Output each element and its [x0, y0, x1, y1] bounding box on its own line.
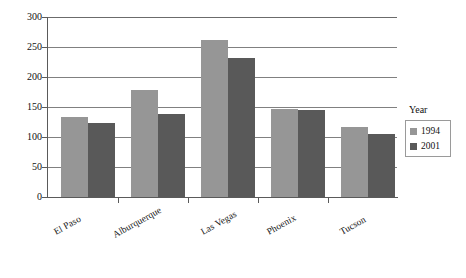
bar-phoenix-1994	[271, 109, 298, 197]
bar-group-tucson	[341, 17, 395, 197]
legend-swatch-1994	[410, 128, 417, 135]
bar-group-phoenix	[271, 17, 325, 197]
bar-alburquerque-1994	[131, 90, 158, 197]
bar-las-vegas-1994	[201, 40, 228, 197]
x-tick-1	[118, 197, 119, 203]
bar-group-el-paso	[61, 17, 115, 197]
legend-label-1994: 1994	[421, 127, 440, 136]
y-tick-label-50: 50	[8, 162, 42, 172]
bar-el-paso-2001	[88, 123, 115, 197]
bar-group-alburquerque	[131, 17, 185, 197]
x-tick-4	[328, 197, 329, 203]
x-tick-3	[258, 197, 259, 203]
legend-swatch-2001	[410, 143, 417, 150]
x-axis-line	[47, 197, 398, 198]
bar-alburquerque-2001	[158, 114, 185, 197]
legend-label-2001: 2001	[421, 142, 440, 151]
bar-group-las-vegas	[201, 17, 255, 197]
legend-title: Year	[409, 104, 427, 115]
y-tick-label-100: 100	[8, 132, 42, 142]
bar-phoenix-2001	[298, 110, 325, 197]
y-tick-label-250: 250	[8, 42, 42, 52]
bar-el-paso-1994	[61, 117, 88, 197]
legend-item-1994[interactable]: 1994	[410, 127, 447, 136]
y-tick-label-150: 150	[8, 102, 42, 112]
plot-area	[48, 17, 397, 197]
bar-las-vegas-2001	[228, 58, 255, 197]
legend-item-2001[interactable]: 2001	[410, 142, 447, 151]
legend: 1994 2001	[405, 120, 451, 157]
bar-chart: 300 250 200 150 100 50 0	[0, 0, 466, 278]
x-tick-2	[188, 197, 189, 203]
bar-tucson-2001	[368, 134, 395, 197]
y-tick-label-300: 300	[8, 12, 42, 22]
bar-tucson-1994	[341, 127, 368, 197]
y-tick-label-0: 0	[8, 192, 42, 202]
y-tick-label-200: 200	[8, 72, 42, 82]
